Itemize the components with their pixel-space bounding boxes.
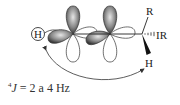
hashed-bond [145,32,154,36]
wedge-bond [142,34,151,55]
bond-to-r-top [142,17,148,34]
hydrogen-bottom: H [145,57,153,69]
r-right-label: IR [156,29,168,41]
hydrogen-left: H [32,28,45,41]
r-top-label: R [146,5,154,17]
coupling-constant-caption: 4J = 2 a 4 Hz [8,81,70,96]
coupling-arrow [46,50,144,80]
svg-text:H: H [34,28,42,40]
